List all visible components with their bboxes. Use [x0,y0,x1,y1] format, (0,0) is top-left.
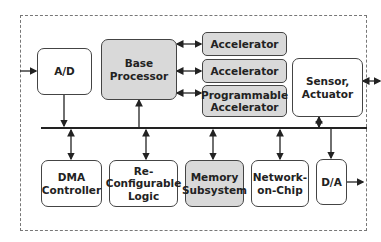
sensor-actuator-block: Sensor,Actuator [292,58,363,117]
base-processor-label-2: Processor [110,70,168,83]
network-on-chip-block: Network-on-Chip [251,160,309,207]
base-processor-block: BaseProcessor [101,39,177,100]
noc-label-2: on-Chip [253,184,307,197]
ad-label: A/D [54,65,75,78]
noc-label-1: Network- [253,171,307,184]
accelerator-2-label: Accelerator [210,65,278,78]
programmable-accelerator-block: ProgrammableAccelerator [202,85,287,117]
base-processor-label-1: Base [110,57,168,70]
ad-converter-block: A/D [37,48,92,95]
reconf-label-2: Configurable [106,177,182,190]
reconf-label-1: Re- [106,165,182,178]
sensor-label-1: Sensor, [302,75,353,88]
reconfigurable-logic-block: Re-ConfigurableLogic [109,160,178,207]
da-label: D/A [321,176,342,189]
dma-label-2: Controller [42,184,101,197]
sensor-label-2: Actuator [302,88,353,101]
prog-acc-label-1: Programmable [201,89,288,102]
reconf-label-3: Logic [106,190,182,203]
da-converter-block: D/A [316,159,347,205]
dma-controller-block: DMAController [41,160,102,207]
accelerator-block-1: Accelerator [202,32,287,56]
accelerator-1-label: Accelerator [210,38,278,51]
memory-label-2: Subsystem [182,184,247,197]
dma-label-1: DMA [42,171,101,184]
prog-acc-label-2: Accelerator [201,101,288,114]
accelerator-block-2: Accelerator [202,59,287,83]
memory-label-1: Memory [182,171,247,184]
memory-subsystem-block: MemorySubsystem [185,160,244,207]
